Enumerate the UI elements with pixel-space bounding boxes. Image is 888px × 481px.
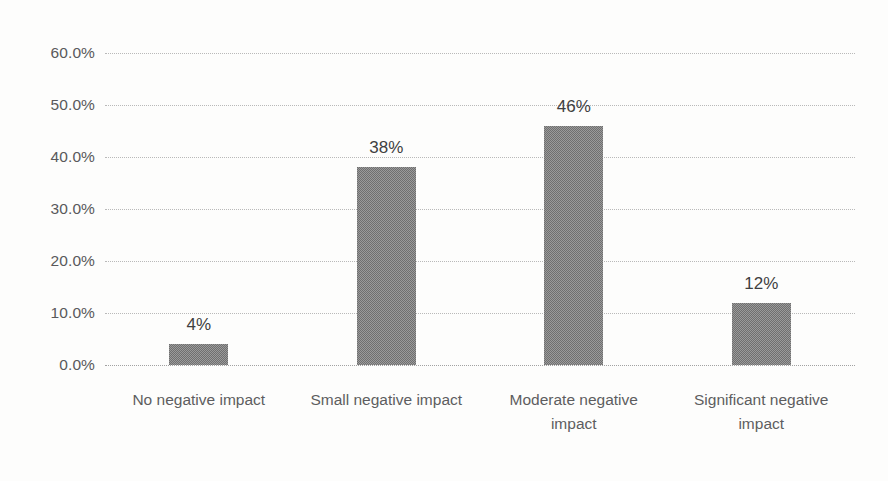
gridline-30: [105, 209, 855, 210]
bar-data-label: 46%: [557, 97, 591, 117]
y-axis-tick-label: 30.0%: [3, 200, 95, 218]
gridline-0: [105, 365, 855, 366]
gridline-40: [105, 157, 855, 158]
y-axis-tick-label: 40.0%: [3, 148, 95, 166]
plot-area: 4%38%46%12%: [105, 53, 855, 365]
x-axis-tick-label: Moderate negative impact: [486, 388, 662, 436]
bar: [169, 344, 228, 365]
bar-chart: 0.0%10.0%20.0%30.0%40.0%50.0%60.0% 4%38%…: [0, 0, 888, 481]
bar-data-label: 12%: [744, 274, 778, 294]
y-axis-tick-label: 50.0%: [3, 96, 95, 114]
y-axis-tick-label: 60.0%: [3, 44, 95, 62]
x-axis-tick-label: Small negative impact: [299, 388, 475, 412]
gridline-50: [105, 105, 855, 106]
bar: [544, 126, 603, 365]
y-axis-tick-label: 20.0%: [3, 252, 95, 270]
bar-data-label: 4%: [186, 315, 211, 335]
bar-data-label: 38%: [369, 138, 403, 158]
gridline-60: [105, 53, 855, 54]
gridline-20: [105, 261, 855, 262]
y-axis-tick-label: 10.0%: [3, 304, 95, 322]
x-axis-tick-label: Significant negative impact: [674, 388, 850, 436]
x-axis-tick-label: No negative impact: [111, 388, 287, 412]
y-axis: 0.0%10.0%20.0%30.0%40.0%50.0%60.0%: [0, 53, 95, 365]
bar: [357, 167, 416, 365]
x-axis: No negative impactSmall negative impactM…: [105, 388, 855, 468]
bar: [732, 303, 791, 365]
y-axis-tick-label: 0.0%: [3, 356, 95, 374]
